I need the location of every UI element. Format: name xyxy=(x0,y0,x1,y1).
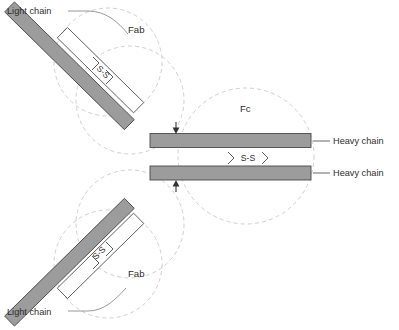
fc-interchain-bond-group: S-S xyxy=(228,152,268,164)
fc-label: Fc xyxy=(240,103,251,114)
hinge-arrow-lower-head xyxy=(173,180,180,187)
light-chain-upper-label: Light chain xyxy=(7,6,51,16)
fc-bond-bracket-right xyxy=(262,152,268,164)
fab-lower-label: Fab xyxy=(128,268,145,279)
fc-heavy-chains-group xyxy=(150,134,311,181)
fc-bond-label: S-S xyxy=(241,153,256,163)
fab-upper-arm-group: S-S xyxy=(5,2,144,130)
antibody-diagram: S-S S-S xyxy=(0,0,399,330)
light-chain-upper-leader xyxy=(68,11,128,34)
fc-bond-bracket-left xyxy=(228,152,234,164)
heavy-chain-upper-fc-bar xyxy=(150,134,311,148)
antibody-structure-svg: S-S S-S xyxy=(0,0,399,330)
fab-upper-label: Fab xyxy=(128,24,145,35)
hinge-arrow-upper-head xyxy=(173,128,180,135)
heavy-chain-upper-label: Heavy chain xyxy=(333,136,384,146)
light-chain-lower-label: Light chain xyxy=(7,307,51,317)
heavy-chain-lower-fc-bar xyxy=(150,166,311,180)
heavy-chain-lower-label: Heavy chain xyxy=(333,168,384,178)
